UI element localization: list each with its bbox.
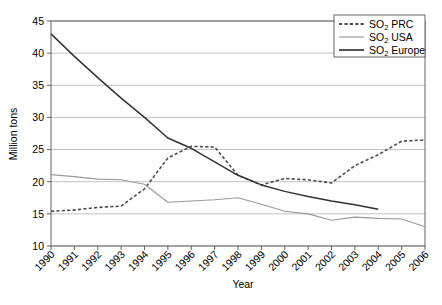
x-tick-label: 2004 bbox=[359, 248, 384, 273]
chart-legend: SO2 PRCSO2 USASO2 Europe bbox=[334, 15, 425, 58]
y-tick-label: 45 bbox=[32, 15, 44, 27]
x-tick-label: 1999 bbox=[242, 248, 267, 273]
x-tick-label: 2006 bbox=[406, 248, 431, 273]
y-tick-label: 30 bbox=[32, 111, 44, 123]
x-tick-label: 2001 bbox=[289, 248, 314, 273]
x-tick-label: 1991 bbox=[55, 248, 80, 273]
y-tick-label: 25 bbox=[32, 143, 44, 155]
y-tick-label: 40 bbox=[32, 47, 44, 59]
chart-container: 1015202530354045 19901991199219931994199… bbox=[0, 0, 442, 305]
x-tick-label: 2002 bbox=[312, 248, 337, 273]
y-tick-label: 35 bbox=[32, 79, 44, 91]
y-axis-title-label: Million tons bbox=[7, 108, 19, 161]
x-tick-label: 1994 bbox=[125, 248, 150, 273]
series-line-so2-europe bbox=[51, 34, 378, 210]
x-tick-label: 2005 bbox=[383, 248, 408, 273]
line-chart: 1015202530354045 19901991199219931994199… bbox=[0, 0, 442, 305]
series-line-so2-usa bbox=[51, 175, 425, 227]
x-tick-label: 1997 bbox=[196, 248, 221, 273]
x-tick-label: 2003 bbox=[336, 248, 361, 273]
y-tick-label: 15 bbox=[32, 208, 44, 220]
x-tick-label: 1993 bbox=[102, 248, 127, 273]
y-axis-ticks: 1015202530354045 bbox=[32, 15, 51, 252]
x-axis-title-label: Year bbox=[232, 278, 254, 290]
x-tick-label: 1996 bbox=[172, 248, 197, 273]
x-axis-title: Year bbox=[232, 278, 254, 290]
x-tick-label: 1995 bbox=[149, 248, 174, 273]
y-axis-title: Million tons bbox=[7, 108, 19, 161]
x-tick-label: 2000 bbox=[266, 248, 291, 273]
x-axis-ticks: 1990199119921993199419951996199719981999… bbox=[32, 246, 431, 273]
x-tick-label: 1992 bbox=[79, 248, 104, 273]
y-tick-label: 20 bbox=[32, 176, 44, 188]
x-tick-label: 1998 bbox=[219, 248, 244, 273]
series-layer bbox=[51, 34, 425, 227]
y-tick-label: 10 bbox=[32, 240, 44, 252]
